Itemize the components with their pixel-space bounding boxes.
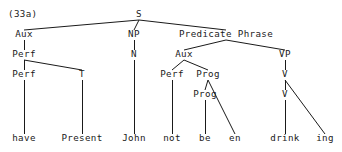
figure-number-label: (33a): [8, 8, 37, 19]
tree-node-n: N: [131, 48, 137, 59]
tree-terminal-john: John: [122, 132, 146, 143]
tree-terminal-ing: ing: [316, 132, 334, 143]
tree-edge-v1-to-ing: [285, 80, 325, 134]
tree-edge-s-to-aux1: [24, 20, 139, 30]
tree-node-s: S: [136, 8, 142, 19]
tree-node-v2: V: [282, 88, 288, 99]
tree-node-prog1: Prog: [196, 68, 220, 79]
tree-node-perf3: Perf: [160, 68, 184, 79]
tree-node-v1: V: [282, 68, 288, 79]
syntax-tree-figure: SAuxNPPredicate PhrasePerfNAuxVPPerfTPer…: [0, 0, 342, 152]
tree-terminal-en: en: [229, 132, 241, 143]
tree-node-aux1: Aux: [15, 28, 33, 39]
tree-terminal-not: not: [163, 132, 181, 143]
syntax-tree-canvas: SAuxNPPredicate PhrasePerfNAuxVPPerfTPer…: [0, 0, 342, 152]
tree-node-perf2: Perf: [12, 68, 36, 79]
tree-terminal-be: be: [199, 132, 211, 143]
tree-nodes-group: SAuxNPPredicate PhrasePerfNAuxVPPerfTPer…: [12, 8, 334, 143]
tree-node-perf1: Perf: [12, 48, 36, 59]
tree-terminal-have: have: [12, 132, 36, 143]
tree-node-predphrase: Predicate Phrase: [179, 28, 273, 39]
tree-terminal-present: Present: [61, 132, 102, 143]
tree-edge-predphrase-to-vp: [226, 40, 285, 50]
tree-node-vp: VP: [279, 48, 291, 59]
tree-node-aux2: Aux: [175, 48, 193, 59]
tree-node-t: T: [79, 68, 85, 79]
tree-node-prog2: Prog: [193, 88, 217, 99]
tree-terminal-drink: drink: [270, 132, 300, 143]
tree-node-np: NP: [128, 28, 140, 39]
